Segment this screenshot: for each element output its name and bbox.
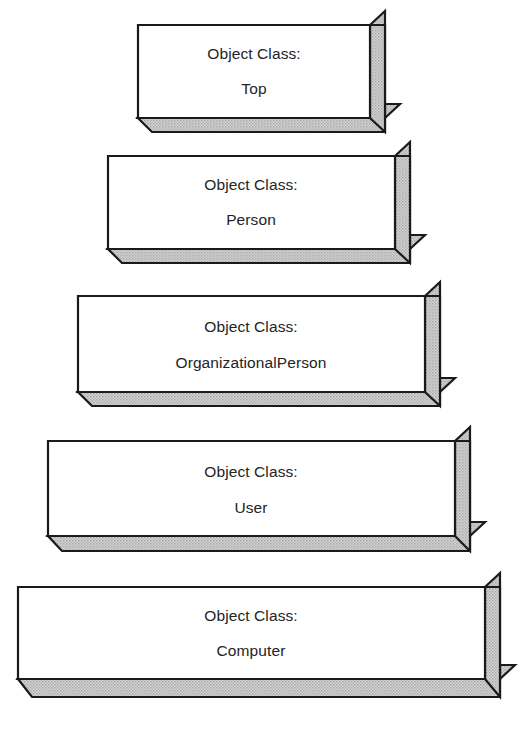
block-user-label-prefix: Object Class: <box>204 463 297 480</box>
block-orgperson-shadow-face <box>78 392 440 406</box>
block-orgperson-label-value: OrganizationalPerson <box>175 354 326 371</box>
block-top-front-face <box>138 25 370 118</box>
block-computer-front-face <box>18 587 485 679</box>
block-computer-label-prefix: Object Class: <box>204 607 297 624</box>
block-orgperson-front-face <box>78 296 425 392</box>
block-top-shadow-face <box>138 118 385 132</box>
object-class-block-organizationalperson: Object Class: OrganizationalPerson <box>78 282 455 406</box>
object-class-block-top: Object Class: Top <box>138 11 400 132</box>
block-person-front-face <box>108 156 395 249</box>
block-person-label-value: Person <box>226 211 276 228</box>
block-user-label-value: User <box>234 499 267 516</box>
block-top-label-prefix: Object Class: <box>207 45 300 62</box>
block-computer-side-face-b <box>485 587 500 697</box>
block-person-label-prefix: Object Class: <box>204 176 297 193</box>
object-class-block-computer: Object Class: Computer <box>18 573 515 697</box>
block-user-front-face <box>48 441 455 536</box>
block-user-shadow-face <box>48 536 470 551</box>
block-person-shadow-face <box>108 249 410 263</box>
block-orgperson-label-prefix: Object Class: <box>204 318 297 335</box>
block-user-side-face-b <box>455 441 470 551</box>
object-class-block-person: Object Class: Person <box>108 142 425 263</box>
hierarchy-canvas: Object Class: Top Object Class: Person O… <box>0 0 527 732</box>
block-orgperson-side-face-b <box>425 296 440 406</box>
block-top-label-value: Top <box>241 80 266 97</box>
block-top-side-face-b <box>370 25 385 132</box>
object-class-hierarchy-diagram: Object Class: Top Object Class: Person O… <box>0 0 527 732</box>
block-computer-label-value: Computer <box>217 642 286 659</box>
block-computer-shadow-face <box>18 679 500 697</box>
object-class-block-user: Object Class: User <box>48 427 485 551</box>
block-person-side-face-b <box>395 156 410 263</box>
